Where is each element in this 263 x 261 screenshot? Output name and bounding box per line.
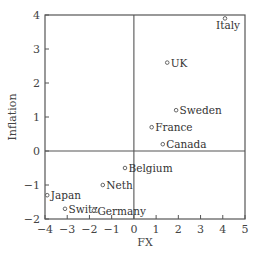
x-axis-ticks: −4−3−2−1012345 — [37, 215, 249, 236]
data-point-sweden: Sweden — [174, 104, 222, 116]
data-point-france: France — [150, 121, 193, 133]
data-points: ItalyUKSwedenFranceCanadaBelgiumNethJapa… — [45, 17, 240, 217]
point-label: Neth — [106, 179, 133, 191]
point-label: Italy — [216, 19, 240, 31]
point-marker-icon — [45, 193, 49, 197]
y-tick-label: 2 — [33, 77, 40, 90]
x-tick-label: 5 — [242, 223, 249, 236]
point-marker-icon — [123, 166, 127, 170]
point-label: UK — [171, 57, 188, 69]
data-point-uk: UK — [165, 57, 187, 69]
scatter-chart: −4−3−2−1012345 −2−101234 ItalyUKSwedenFr… — [0, 0, 263, 261]
x-tick-label: 4 — [219, 223, 226, 236]
point-label: Japan — [50, 189, 81, 201]
x-tick-label: 2 — [175, 223, 182, 236]
data-point-neth: Neth — [101, 179, 133, 191]
point-marker-icon — [161, 142, 165, 146]
point-label: Sweden — [180, 104, 222, 116]
y-tick-label: 1 — [33, 111, 40, 124]
point-marker-icon — [101, 183, 105, 187]
point-marker-icon — [63, 207, 67, 211]
y-tick-label: −2 — [24, 213, 40, 226]
point-label: Canada — [166, 138, 206, 150]
y-tick-label: 4 — [33, 9, 40, 22]
data-point-italy: Italy — [216, 17, 240, 32]
x-tick-label: −1 — [104, 223, 120, 236]
x-tick-label: 1 — [153, 223, 160, 236]
y-tick-label: 0 — [33, 145, 40, 158]
x-axis-title: FX — [137, 236, 153, 249]
point-marker-icon — [165, 61, 169, 65]
data-point-germany: Germany — [92, 205, 146, 217]
x-tick-label: −3 — [59, 223, 75, 236]
data-point-belgium: Belgium — [123, 162, 172, 174]
data-point-canada: Canada — [161, 138, 207, 150]
y-tick-label: −1 — [24, 179, 40, 192]
point-marker-icon — [174, 108, 178, 112]
point-marker-icon — [150, 125, 154, 129]
x-tick-label: 3 — [197, 223, 204, 236]
y-axis-title: Inflation — [6, 94, 19, 141]
point-label: France — [155, 121, 192, 133]
y-tick-label: 3 — [33, 43, 40, 56]
point-label: Germany — [97, 205, 146, 217]
data-point-japan: Japan — [45, 189, 81, 201]
x-tick-label: −2 — [81, 223, 97, 236]
point-label: Belgium — [129, 162, 173, 174]
x-tick-label: 0 — [130, 223, 137, 236]
point-marker-icon — [92, 209, 96, 213]
